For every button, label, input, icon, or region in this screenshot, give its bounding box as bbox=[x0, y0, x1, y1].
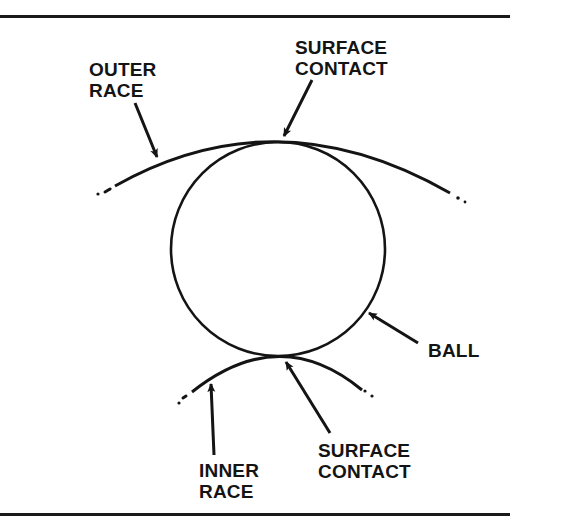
surface-contact-top-arrow bbox=[284, 80, 312, 136]
outer-race-label-line1: OUTER bbox=[89, 59, 157, 80]
inner-race-arc bbox=[177, 356, 373, 404]
surface-contact-bottom-label: SURFACE CONTACT bbox=[318, 440, 411, 482]
ball-label: BALL bbox=[428, 340, 479, 361]
surface-contact-bottom-line1: SURFACE bbox=[318, 440, 411, 461]
outer-race-arrow bbox=[135, 103, 157, 157]
outer-race-label: OUTER RACE bbox=[89, 59, 157, 101]
outer-race-arc bbox=[96, 142, 466, 204]
inner-race-label-line1: INNER bbox=[199, 460, 259, 481]
surface-contact-top-label: SURFACE CONTACT bbox=[295, 37, 388, 79]
ball-circle bbox=[171, 142, 385, 356]
bearing-diagram bbox=[0, 0, 574, 532]
surface-contact-bottom-arrow bbox=[286, 362, 330, 433]
inner-race-arrow bbox=[211, 384, 214, 455]
outer-race-label-line2: RACE bbox=[89, 80, 157, 101]
ball-arrow bbox=[369, 313, 418, 343]
ball-label-line1: BALL bbox=[428, 340, 479, 361]
surface-contact-top-line1: SURFACE bbox=[295, 37, 388, 58]
inner-race-label-line2: RACE bbox=[199, 481, 259, 502]
surface-contact-top-line2: CONTACT bbox=[295, 58, 388, 79]
surface-contact-bottom-line2: CONTACT bbox=[318, 461, 411, 482]
inner-race-label: INNER RACE bbox=[199, 460, 259, 502]
